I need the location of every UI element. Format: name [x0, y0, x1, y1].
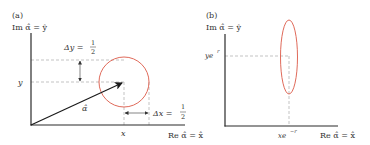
- svg-text:Δy =: Δy =: [63, 43, 84, 52]
- svg-text:2: 2: [91, 48, 95, 56]
- svg-text:r: r: [217, 48, 220, 54]
- svg-text:1: 1: [181, 103, 185, 111]
- alpha-vector-label: α̂: [82, 104, 88, 113]
- panel-b-y-axis-label: Im α̂ = ŷ: [206, 23, 241, 32]
- panel-a: (a) Im α̂ = ŷ y x α̂ Δy = 1 2: [12, 11, 203, 140]
- panel-b-y-tick: ye r: [204, 48, 220, 60]
- svg-text:−r: −r: [290, 128, 297, 134]
- panel-a-y-tick: y: [17, 78, 23, 87]
- panel-b-label: (b): [206, 11, 217, 20]
- panel-a-y-axis-label: Im α̂ = ŷ: [12, 23, 47, 32]
- delta-x-label: Δx = 1 2: [152, 103, 186, 121]
- svg-text:2: 2: [181, 113, 185, 121]
- panel-a-label: (a): [12, 11, 23, 20]
- panel-a-guides: [31, 60, 149, 125]
- alpha-vector-arrow: [31, 83, 122, 125]
- svg-text:1: 1: [91, 39, 95, 47]
- svg-text:xe: xe: [278, 132, 286, 140]
- panel-b-x-axis-label: Re α̂ = x̂: [320, 131, 355, 140]
- panel-b: (b) Im α̂ = ŷ ye r xe −r Re α̂ = x̂: [204, 11, 355, 140]
- panel-a-x-axis-label: Re α̂ = x̂: [168, 131, 203, 140]
- panel-b-x-tick: xe −r: [278, 128, 297, 140]
- svg-text:ye: ye: [204, 52, 213, 60]
- svg-text:Δx =: Δx =: [152, 109, 173, 118]
- phase-space-diagram: (a) Im α̂ = ŷ y x α̂ Δy = 1 2: [0, 0, 370, 145]
- delta-y-label: Δy = 1 2: [63, 39, 96, 56]
- panel-b-guides: [225, 56, 289, 126]
- panel-a-x-tick: x: [121, 129, 126, 138]
